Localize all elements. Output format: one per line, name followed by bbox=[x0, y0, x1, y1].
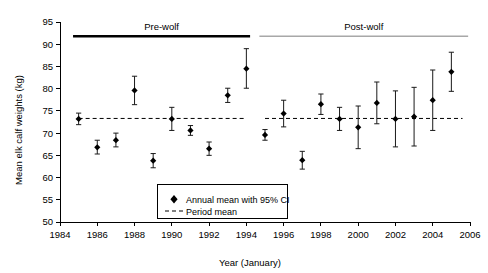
y-tick-label: 60 bbox=[42, 172, 53, 183]
x-tick-label: 2004 bbox=[422, 229, 443, 240]
x-tick-label: 1996 bbox=[273, 229, 294, 240]
x-tick-label: 1984 bbox=[49, 229, 70, 240]
period-bar-label-pre-wolf: Pre-wolf bbox=[144, 21, 179, 32]
chart-figure: Mean elk calf weights (kg) Year (January… bbox=[0, 0, 488, 273]
y-axis-title-text: Mean elk calf weights (kg) bbox=[13, 75, 24, 185]
period-bar-label-post-wolf: Post-wolf bbox=[344, 21, 383, 32]
x-tick-label: 2000 bbox=[348, 229, 369, 240]
x-tick-label: 2002 bbox=[385, 229, 406, 240]
x-tick-label: 1992 bbox=[199, 229, 220, 240]
legend-label-period: Period mean bbox=[186, 207, 237, 217]
y-tick-label: 55 bbox=[42, 194, 53, 205]
y-tick-label: 95 bbox=[42, 16, 53, 27]
y-tick-label: 65 bbox=[42, 150, 53, 161]
x-tick-label: 1986 bbox=[87, 229, 108, 240]
chart-legend: Annual mean with 95% CI Period mean bbox=[157, 184, 290, 218]
x-tick-label: 2006 bbox=[459, 229, 480, 240]
elk-calf-weight-scatter-plot: Mean elk calf weights (kg) Year (January… bbox=[0, 0, 488, 273]
y-axis-title: Mean elk calf weights (kg) bbox=[13, 75, 24, 185]
legend-label-annual: Annual mean with 95% CI bbox=[186, 195, 290, 205]
x-tick-label: 1990 bbox=[161, 229, 182, 240]
y-tick-label: 80 bbox=[42, 83, 53, 94]
y-tick-label: 85 bbox=[42, 61, 53, 72]
y-tick-label: 70 bbox=[42, 128, 53, 139]
x-axis-title: Year (January) bbox=[219, 257, 281, 268]
y-tick-label: 50 bbox=[42, 216, 53, 227]
x-axis-title-text: Year (January) bbox=[219, 257, 281, 268]
x-tick-label: 1988 bbox=[124, 229, 145, 240]
x-tick-label: 1998 bbox=[310, 229, 331, 240]
y-tick-label: 75 bbox=[42, 105, 53, 116]
x-tick-label: 1994 bbox=[236, 229, 257, 240]
y-tick-label: 90 bbox=[42, 39, 53, 50]
